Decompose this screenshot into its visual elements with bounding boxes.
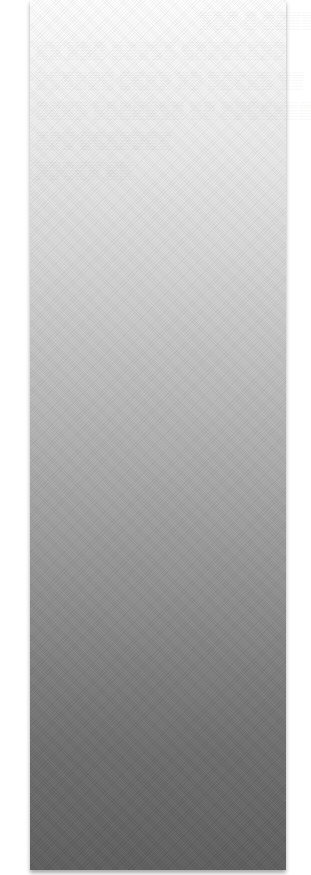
faded-text-line: ▒▒▒▒▒ ▒▒ (0, 156, 206, 186)
faded-text-line: ▒▒▒▒▒▒ ▒▒▒▒ ▒▒ ▒▒▒▒▒ ▒▒ (0, 66, 311, 96)
page: ▒▒▒ ▒ ▒▒▒▒ ▒▒ ▒▒ ▒▒▒ ▒▒▒▒▒ ▒▒▒▒▒▒▒▒ ▒▒▒▒… (0, 0, 311, 875)
faded-text-line: ▒▒▒ ▒▒▒▒▒▒▒ (0, 126, 206, 156)
faded-text-line: ▒▒▒ ▒ ▒▒▒▒ ▒▒ (0, 6, 311, 36)
faded-text-line: ▒▒ ▒▒▒ ▒▒▒▒▒ ▒▒▒▒▒▒▒▒ (0, 36, 311, 66)
faded-text-block: ▒▒▒ ▒ ▒▒▒▒ ▒▒ ▒▒ ▒▒▒ ▒▒▒▒▒ ▒▒▒▒▒▒▒▒ ▒▒▒▒… (0, 0, 311, 186)
faded-text-line: ▒▒▒▒ ▒▒▒▒▒▒▒ ▒▒ ▒▒▒▒▒▒▒ (0, 96, 311, 126)
